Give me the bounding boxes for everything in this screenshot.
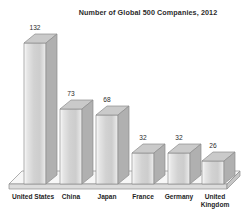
category-label-line: United xyxy=(188,193,241,201)
bar-china[interactable]: 73 xyxy=(60,100,82,184)
category-label-line: Kingdom xyxy=(188,201,241,209)
category-label-united-kingdom: United Kingdom xyxy=(188,193,241,209)
bar-shape xyxy=(96,106,130,184)
bar-united-kingdom[interactable]: 26 xyxy=(202,152,224,184)
bar-value-label: 68 xyxy=(87,96,127,103)
bar-united-states[interactable]: 132 xyxy=(24,34,46,184)
bar-value-label: 32 xyxy=(123,134,163,141)
bar-value-label: 132 xyxy=(15,24,55,31)
bar-shape xyxy=(132,144,166,184)
bar-france[interactable]: 32 xyxy=(132,144,154,184)
bar-japan[interactable]: 68 xyxy=(96,106,118,184)
bars-layer: 132 73 xyxy=(0,0,241,213)
bar-chart: Number of Global 500 Companies, 2012 132 xyxy=(0,0,241,213)
bar-shape xyxy=(60,100,94,184)
bar-value-label: 26 xyxy=(193,142,233,149)
bar-value-label: 73 xyxy=(51,90,91,97)
bar-shape xyxy=(202,152,236,184)
bar-germany[interactable]: 32 xyxy=(168,144,190,184)
bar-shape xyxy=(168,144,202,184)
bar-shape xyxy=(24,34,58,184)
bar-value-label: 32 xyxy=(159,134,199,141)
